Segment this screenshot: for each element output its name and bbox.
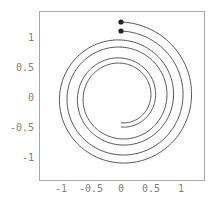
x-tick-label: 0.5 xyxy=(142,183,160,194)
x-tick-label: -1 xyxy=(55,183,67,194)
y-tick-label: 0 xyxy=(28,92,34,103)
y-tick-label: -0.5 xyxy=(10,122,34,133)
y-tick-label: 1 xyxy=(28,32,34,43)
y-axis-ticks: 1 0.5 0 -0.5 -1 xyxy=(10,32,34,163)
outer-spiral-line xyxy=(59,22,191,163)
y-tick-label: 0.5 xyxy=(16,62,34,73)
x-tick-label: -0.5 xyxy=(79,183,103,194)
inner-spiral-line xyxy=(67,31,183,155)
inner-spiral-start-marker xyxy=(118,28,123,33)
x-tick-label: 1 xyxy=(178,183,184,194)
outer-spiral-start-marker xyxy=(118,19,123,24)
x-tick-label: 0 xyxy=(118,183,124,194)
x-axis-ticks: -1 -0.5 0 0.5 1 xyxy=(55,183,184,194)
series-layer xyxy=(59,19,191,163)
y-tick-label: -1 xyxy=(22,152,34,163)
spiral-chart: -1 -0.5 0 0.5 1 1 0.5 0 -0.5 -1 xyxy=(0,0,214,198)
